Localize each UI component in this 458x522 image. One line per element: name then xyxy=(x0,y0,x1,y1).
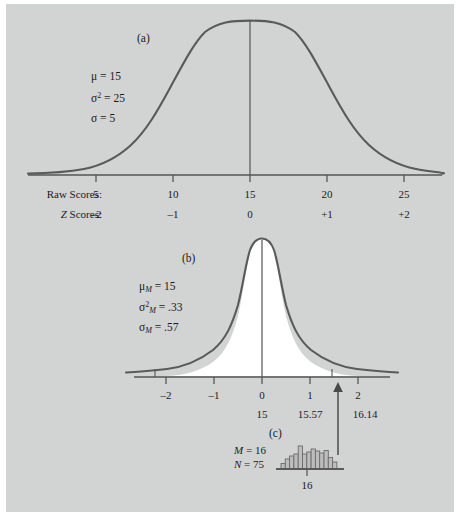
z-score-value: +1 xyxy=(317,209,337,220)
figure-container: (a) μ = 15 σ2 = 25 σ = 5 Raw Scores: Z S… xyxy=(0,0,458,522)
histogram-bar xyxy=(311,449,315,469)
histogram-bar xyxy=(333,462,337,469)
panel-a-param-sd-symbol: σ xyxy=(91,112,97,124)
panel-b-z-tick-label: 1 xyxy=(300,390,320,401)
histogram-bars xyxy=(281,446,337,469)
panel-b-z-tick-label: 2 xyxy=(348,390,368,401)
sample-mean-stat: M = 16 xyxy=(234,445,266,456)
panel-b-param-sd: σM = .57 xyxy=(139,322,179,335)
sample-size-symbol: N xyxy=(234,458,241,470)
raw-score-value: 25 xyxy=(394,189,414,200)
histogram-bar xyxy=(320,453,324,469)
histogram-bar xyxy=(294,454,298,469)
panel-a-param-mu: μ = 15 xyxy=(91,71,121,83)
panel-b-z-tick-label: –1 xyxy=(204,390,224,401)
histogram-bar xyxy=(315,451,319,469)
raw-score-value: 20 xyxy=(317,189,337,200)
panel-b-param-mu-value: = 15 xyxy=(155,280,176,292)
panel-a-param-variance-value: = 25 xyxy=(104,92,125,104)
panel-a-param-sd: σ = 5 xyxy=(91,113,115,125)
panel-b-param-sd-value: = .57 xyxy=(155,321,179,333)
panel-c-graphics xyxy=(276,446,344,476)
panel-a-param-mu-value: = 15 xyxy=(100,70,121,82)
panel-b-raw-tick-label: 15.57 xyxy=(287,409,333,420)
raw-score-value: 10 xyxy=(163,189,183,200)
panel-b-raw-tick-label: 16.14 xyxy=(342,409,388,420)
panel-b-param-variance-value: = .33 xyxy=(159,301,183,313)
histogram-bar xyxy=(328,458,332,470)
sample-size-value: = 75 xyxy=(244,458,264,470)
histogram-bar xyxy=(303,454,307,469)
panel-b-param-variance-subscript: M xyxy=(149,306,156,315)
z-score-value: 0 xyxy=(240,209,260,220)
panel-b-param-variance: σ2M = .33 xyxy=(139,301,183,315)
raw-score-value: 5 xyxy=(86,189,106,200)
histogram-bar xyxy=(298,446,302,469)
raw-score-value: 15 xyxy=(240,189,260,200)
panel-b-z-tick-label: 0 xyxy=(252,390,272,401)
panel-b-param-sd-subscript: M xyxy=(145,326,152,335)
panel-b-raw-tick-label: 15 xyxy=(249,409,275,420)
panel-a-param-mu-symbol: μ xyxy=(91,70,97,82)
panel-a-tag: (a) xyxy=(137,33,150,45)
z-score-value: +2 xyxy=(394,209,414,220)
sample-mean-value: = 16 xyxy=(246,444,266,456)
panel-b-param-mu: μM = 15 xyxy=(139,281,176,294)
panel-b-tag: (b) xyxy=(182,253,195,265)
panel-b-param-mu-subscript: M xyxy=(145,285,152,294)
panel-a-param-variance-exponent: 2 xyxy=(97,91,101,100)
arrow-head xyxy=(333,382,343,392)
panel-c-tag: (c) xyxy=(269,428,282,440)
figure-graphics xyxy=(0,0,458,522)
histogram-bar xyxy=(324,451,328,470)
panel-b-z-tick-label: –2 xyxy=(156,390,176,401)
panel-c-axis-label: 16 xyxy=(297,480,317,491)
z-score-value: –1 xyxy=(163,209,183,220)
z-score-value: –2 xyxy=(86,209,106,220)
histogram-bar xyxy=(285,459,289,469)
histogram-bar xyxy=(307,452,311,469)
sample-mean-symbol: M xyxy=(234,444,243,456)
z-scores-row-label-italic: Z xyxy=(61,208,67,220)
histogram-bar xyxy=(290,456,294,469)
sample-size-stat: N = 75 xyxy=(234,459,264,470)
panel-a-param-variance: σ2 = 25 xyxy=(91,92,125,105)
panel-a-param-sd-value: = 5 xyxy=(100,112,115,124)
